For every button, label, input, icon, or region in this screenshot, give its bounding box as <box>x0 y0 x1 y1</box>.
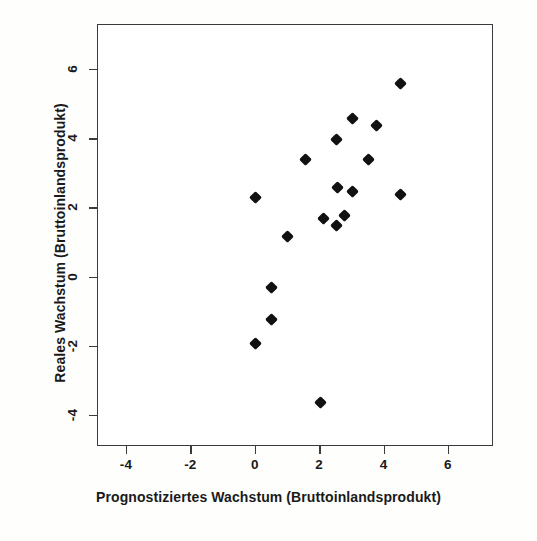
x-axis-tick-label: 0 <box>235 457 275 472</box>
data-point <box>299 154 312 167</box>
y-axis-tick <box>89 277 97 278</box>
data-point <box>338 209 351 222</box>
x-axis-tick-label: 2 <box>299 457 339 472</box>
y-axis-tick <box>89 346 97 347</box>
data-point <box>330 133 343 146</box>
data-point <box>330 219 343 232</box>
plot-frame <box>97 24 493 446</box>
x-axis-tick <box>384 446 385 454</box>
data-point <box>346 185 359 198</box>
data-point <box>282 230 295 243</box>
x-axis-tick-label: 4 <box>364 457 404 472</box>
data-point <box>249 337 262 350</box>
x-axis-tick <box>190 446 191 454</box>
scatter-plot-figure: -4-20246-4-20246 Prognostiziertes Wachst… <box>0 0 537 541</box>
x-axis-tick-label: -2 <box>170 457 210 472</box>
data-point <box>314 396 327 409</box>
x-axis-tick-label: -4 <box>106 457 146 472</box>
data-point <box>331 181 344 194</box>
y-axis-tick <box>89 207 97 208</box>
y-axis-tick <box>89 138 97 139</box>
x-axis-title: Prognostiziertes Wachstum (Bruttoinlands… <box>0 489 537 505</box>
x-axis-tick <box>319 446 320 454</box>
x-axis-tick <box>255 446 256 454</box>
data-point <box>394 188 407 201</box>
x-axis-tick <box>126 446 127 454</box>
data-point <box>265 282 278 295</box>
data-point <box>346 112 359 125</box>
y-axis-title: Reales Wachstum (Bruttoinlandsprodukt) <box>52 33 68 453</box>
x-axis-tick-label: 6 <box>428 457 468 472</box>
y-axis-tick <box>89 69 97 70</box>
x-axis-tick <box>448 446 449 454</box>
data-point <box>249 192 262 205</box>
data-point <box>394 77 407 90</box>
data-point <box>370 119 383 132</box>
data-point <box>265 313 278 326</box>
data-point <box>317 212 330 225</box>
plot-data-area <box>98 25 492 445</box>
data-point <box>362 154 375 167</box>
y-axis-tick <box>89 415 97 416</box>
